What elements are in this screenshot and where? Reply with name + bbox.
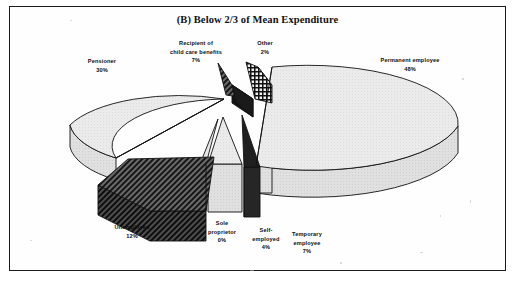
- label-child-care: Recipient of child care benefits 7%: [159, 39, 233, 65]
- label-sole-proprietor-name-line2: proprietor: [208, 229, 236, 235]
- label-self-employed-name-line1: Self-: [260, 227, 273, 233]
- slice-top-pensioner: [70, 96, 224, 158]
- label-temporary-employee: Temporary employee 7%: [292, 230, 322, 256]
- label-self-employed-name-line2: employed: [252, 236, 279, 242]
- label-permanent-employee-name: Permanent employee: [381, 57, 440, 63]
- label-unemployed-percent: 12%: [114, 232, 149, 241]
- label-permanent-employee: Permanent employee 48%: [381, 56, 440, 73]
- slice-top-child-care: [218, 63, 253, 117]
- slice-side-temporary-employee: [244, 167, 260, 217]
- label-other-percent: 2%: [257, 48, 273, 57]
- label-self-employed: Self- employed 4%: [252, 226, 279, 252]
- label-other: Other 2%: [257, 39, 273, 56]
- label-sole-proprietor-percent: 0%: [208, 236, 236, 245]
- label-temporary-employee-percent: 7%: [292, 247, 322, 256]
- label-temporary-employee-name-line1: Temporary: [292, 231, 322, 237]
- label-pensioner-name: Pensioner: [88, 58, 116, 64]
- label-sole-proprietor-name-line1: Sole: [216, 220, 228, 226]
- label-child-care-percent: 7%: [159, 56, 233, 65]
- label-child-care-name-line2: child care benefits: [170, 49, 222, 55]
- chart-figure-frame: (B) Below 2/3 of Mean Expenditure: [9, 6, 506, 271]
- label-pensioner-percent: 30%: [88, 66, 116, 75]
- label-pensioner: Pensioner 30%: [88, 57, 116, 74]
- label-unemployed: Unemployed 12%: [114, 223, 149, 240]
- label-other-name: Other: [257, 40, 273, 46]
- label-temporary-employee-name-line2: employee: [293, 240, 320, 246]
- label-sole-proprietor: Sole proprietor 0%: [208, 219, 236, 245]
- slice-side-self-employed: [208, 164, 242, 212]
- label-child-care-name-line1: Recipient of: [179, 40, 213, 46]
- label-unemployed-name: Unemployed: [114, 224, 149, 230]
- label-permanent-employee-percent: 48%: [381, 65, 440, 74]
- label-self-employed-percent: 4%: [252, 243, 279, 252]
